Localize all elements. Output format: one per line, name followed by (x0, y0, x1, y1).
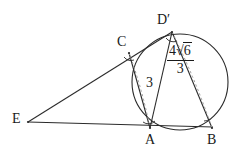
point-label-B: B (207, 133, 216, 147)
point-label-C: C (117, 35, 126, 49)
point-dot-B (211, 127, 213, 129)
point-label-E: E (12, 112, 21, 126)
point-dot-D (171, 31, 173, 33)
fraction-numerator-coefficient: 4 (169, 43, 176, 58)
point-dot-A (149, 127, 151, 129)
fraction-denominator: 3 (167, 61, 194, 77)
measurement-label-CA: 3 (146, 76, 153, 90)
segment-E-B (28, 122, 213, 127)
segment-C-A (129, 53, 150, 128)
geometry-figure: E A B C D′ 3 4√6 3 (0, 0, 244, 158)
measurement-label-DB: 4√6 3 (167, 44, 194, 76)
fraction-numerator: 4√6 (167, 44, 194, 60)
point-label-A: A (145, 133, 155, 147)
point-dot-C (128, 52, 130, 54)
radicand: 6 (183, 42, 192, 58)
point-label-D-prime: D′ (157, 13, 170, 27)
point-dot-E (27, 121, 29, 123)
